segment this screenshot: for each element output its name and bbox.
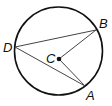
label-a: A <box>85 88 95 103</box>
circle <box>15 7 103 95</box>
label-b: B <box>99 16 108 31</box>
radius-ca <box>59 59 85 86</box>
circle-diagram: B D A C <box>0 0 112 106</box>
chord-db <box>15 30 96 47</box>
label-c: C <box>46 51 56 66</box>
center-point <box>57 57 62 62</box>
label-d: D <box>3 40 12 55</box>
